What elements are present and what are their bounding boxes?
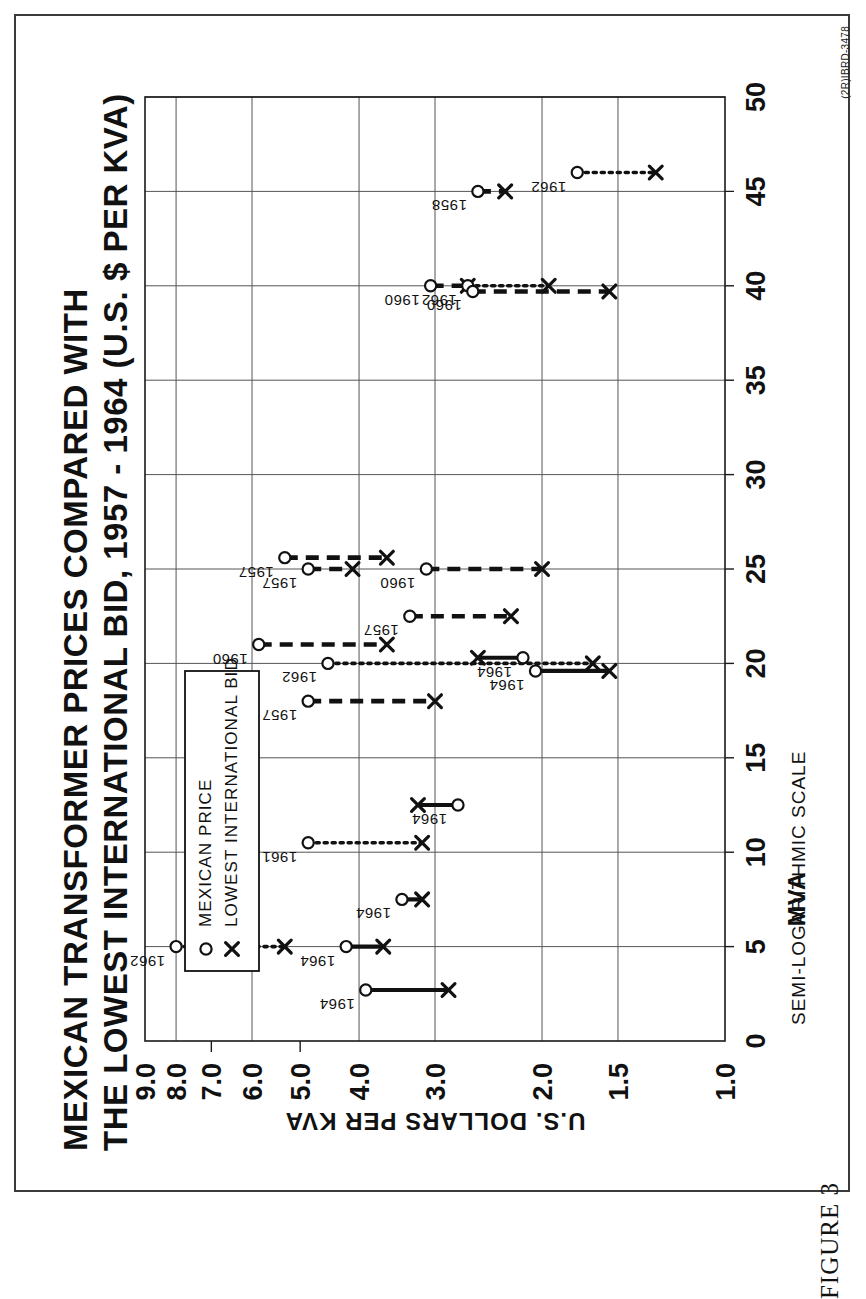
data-point-group: 1960 bbox=[380, 563, 548, 592]
y-axis-label: U.S. DOLLARS PER KVA bbox=[285, 1108, 586, 1135]
year-label: 1957 bbox=[262, 707, 297, 724]
year-label: 1964 bbox=[300, 953, 335, 970]
year-label: 1960 bbox=[384, 292, 419, 309]
year-label: 1964 bbox=[412, 811, 447, 828]
data-point-group: 1961 bbox=[262, 836, 429, 865]
mexican-price-marker bbox=[396, 894, 407, 905]
x-tick-label: 45 bbox=[741, 176, 771, 206]
y-axis-ticks: 9.08.07.06.05.04.03.02.01.51.0 bbox=[131, 1041, 741, 1101]
mexican-price-marker bbox=[425, 280, 436, 291]
y-tick-label: 9.0 bbox=[131, 1063, 161, 1101]
mexican-price-marker bbox=[421, 563, 432, 574]
figure-chart: MEXICAN TRANSFORMER PRICES COMPARED WITH… bbox=[53, 49, 813, 1159]
legend-label: MEXICAN PRICE bbox=[196, 779, 215, 927]
mexican-price-marker bbox=[360, 984, 371, 995]
mexican-price-marker bbox=[303, 563, 314, 574]
y-tick-label: 7.0 bbox=[197, 1063, 227, 1101]
chart-title-group: MEXICAN TRANSFORMER PRICES COMPARED WITH… bbox=[57, 93, 134, 1151]
mexican-price-marker bbox=[200, 943, 211, 954]
x-tick-label: 10 bbox=[741, 837, 771, 867]
y-tick-label: 5.0 bbox=[286, 1063, 316, 1101]
x-tick-label: 50 bbox=[741, 82, 771, 112]
mexican-price-marker bbox=[472, 186, 483, 197]
year-label: 1958 bbox=[432, 197, 467, 214]
y-tick-label: 1.5 bbox=[604, 1063, 634, 1101]
mexican-price-marker bbox=[253, 639, 264, 650]
scale-note-group: SEMI-LOGARITHMIC SCALE bbox=[788, 751, 809, 1025]
year-label: 1960 bbox=[426, 297, 461, 314]
mexican-price-marker bbox=[303, 696, 314, 707]
x-tick-label: 15 bbox=[741, 743, 771, 773]
data-point-group: 1964 bbox=[356, 893, 429, 922]
y-tick-label: 4.0 bbox=[345, 1063, 375, 1101]
data-point-group: 1964 bbox=[300, 940, 390, 969]
year-label: 1964 bbox=[489, 677, 524, 694]
y-tick-label: 6.0 bbox=[238, 1063, 268, 1101]
data-point-group: 1964 bbox=[472, 651, 529, 680]
mexican-price-marker bbox=[404, 611, 415, 622]
x-tick-label: 35 bbox=[741, 365, 771, 395]
scale-note: SEMI-LOGARITHMIC SCALE bbox=[788, 751, 809, 1025]
mexican-price-marker bbox=[322, 658, 333, 669]
mexican-price-marker bbox=[452, 799, 463, 810]
year-label: 1960 bbox=[380, 575, 415, 592]
mexican-price-marker bbox=[170, 941, 181, 952]
x-tick-label: 30 bbox=[741, 460, 771, 490]
year-label: 1962 bbox=[282, 669, 317, 686]
chart-title-line2: THE LOWEST INTERNATIONAL BID, 1957 - 196… bbox=[97, 93, 134, 1151]
year-label: 1964 bbox=[356, 905, 391, 922]
data-point-group: 1957 bbox=[238, 551, 393, 580]
year-label: 1964 bbox=[319, 996, 354, 1013]
data-point-group: 1964 bbox=[412, 799, 464, 828]
legend-label: LOWEST INTERNATIONAL BID bbox=[222, 657, 241, 927]
x-tick-label: 5 bbox=[741, 939, 771, 954]
chart-title-line1: MEXICAN TRANSFORMER PRICES COMPARED WITH bbox=[57, 288, 94, 1151]
data-point-group: 1957 bbox=[262, 563, 359, 592]
y-tick-label: 2.0 bbox=[528, 1063, 558, 1101]
lowest-bid-marker bbox=[416, 836, 429, 849]
chart-canvas: MEXICAN TRANSFORMER PRICES COMPARED WITH… bbox=[53, 49, 813, 1159]
x-tick-label: 40 bbox=[741, 271, 771, 301]
data-point-group: 1960 bbox=[426, 285, 615, 314]
data-point-group: 1957 bbox=[363, 610, 517, 639]
data-point-group: 1958 bbox=[432, 185, 512, 214]
x-tick-label: 20 bbox=[741, 648, 771, 678]
document-id: (2R)IBRD-3478 bbox=[840, 26, 851, 99]
x-axis-ticks: 05101520253035404550 bbox=[725, 82, 771, 1049]
data-point-group: 1957 bbox=[262, 695, 442, 724]
figure-caption: FIGURE 3 bbox=[816, 1182, 844, 1299]
mexican-price-marker bbox=[279, 552, 290, 563]
lowest-bid-marker bbox=[380, 551, 393, 564]
year-label: 1961 bbox=[262, 849, 297, 866]
y-tick-label: 1.0 bbox=[711, 1063, 741, 1101]
mexican-price-marker bbox=[517, 652, 528, 663]
y-tick-label: 8.0 bbox=[162, 1063, 192, 1101]
chart-legend: MEXICAN PRICELOWEST INTERNATIONAL BID bbox=[185, 657, 259, 971]
mexican-price-marker bbox=[572, 167, 583, 178]
mexican-price-marker bbox=[341, 941, 352, 952]
mexican-price-marker bbox=[303, 837, 314, 848]
mexican-price-marker bbox=[467, 286, 478, 297]
year-label: 1962 bbox=[130, 953, 165, 970]
mexican-price-marker bbox=[530, 665, 541, 676]
year-label: 1957 bbox=[363, 622, 398, 639]
y-tick-label: 3.0 bbox=[421, 1063, 451, 1101]
year-label: 1957 bbox=[262, 575, 297, 592]
x-tick-label: 25 bbox=[741, 554, 771, 584]
year-label: 1962 bbox=[531, 179, 566, 196]
x-tick-label: 0 bbox=[741, 1033, 771, 1048]
